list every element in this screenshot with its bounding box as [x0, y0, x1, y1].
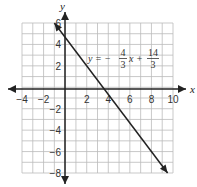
x-tick-label: −4	[16, 94, 28, 105]
eq-frac2-num: 14	[148, 47, 158, 58]
line-arrow-icon	[160, 165, 168, 173]
y-axis-label: y	[59, 0, 65, 12]
x-tick-label: 8	[149, 94, 155, 105]
x-axis-left-arrow-icon	[8, 85, 16, 93]
x-tick-label: 10	[167, 94, 179, 105]
x-axis-label: x	[189, 83, 195, 95]
y-tick-label: −8	[50, 168, 62, 179]
eq-frac2-den: 3	[151, 59, 156, 70]
eq-frac1-num: 4	[121, 47, 126, 58]
y-tick-labels: 642−2−4−6−8	[50, 18, 62, 179]
y-tick-label: −6	[50, 147, 62, 158]
x-tick-label: 2	[84, 94, 90, 105]
y-tick-label: −4	[50, 125, 62, 136]
eq-lhs: y = −	[87, 53, 111, 64]
coordinate-graph: x y −4−2246810 642−2−4−6−8 y = − 4 3 x +…	[0, 0, 197, 187]
y-tick-label: 4	[55, 39, 61, 50]
y-axis-down-arrow-icon	[61, 176, 69, 184]
eq-mid: x +	[128, 53, 143, 64]
x-axis-right-arrow-icon	[178, 85, 186, 93]
x-tick-label: −2	[38, 94, 50, 105]
eq-frac1-den: 3	[121, 59, 126, 70]
x-tick-label: 6	[127, 94, 133, 105]
y-tick-label: 2	[55, 61, 61, 72]
y-axis-up-arrow-icon	[61, 12, 69, 20]
y-tick-label: −2	[50, 104, 62, 115]
